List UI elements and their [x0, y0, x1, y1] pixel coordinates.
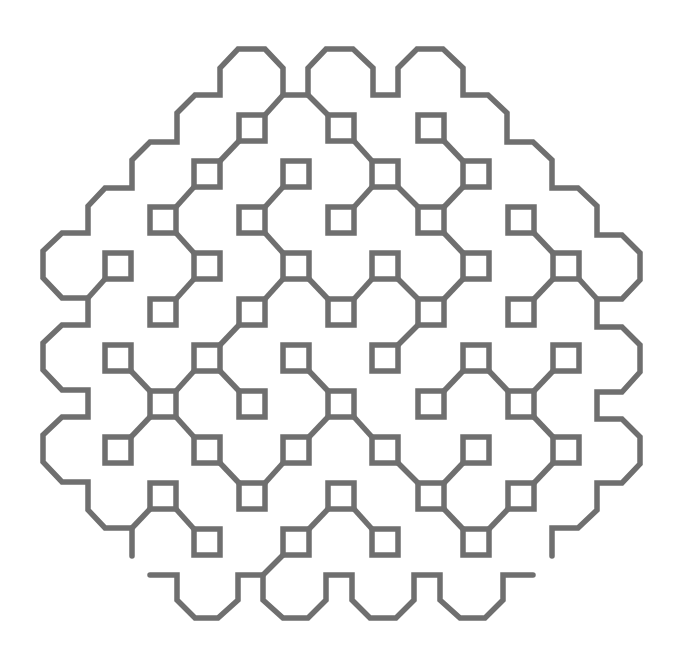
diagonal-link — [176, 233, 194, 253]
diagonal-link — [176, 371, 194, 391]
square-node — [150, 391, 176, 417]
square-node — [150, 299, 176, 325]
rim-link — [308, 95, 328, 115]
diagonal-link — [176, 417, 194, 437]
square-node — [239, 207, 265, 233]
square-node — [418, 207, 444, 233]
square-node — [283, 345, 309, 371]
square-node — [463, 253, 489, 279]
diagonal-link — [131, 417, 150, 437]
maze-pattern-drawing — [0, 0, 680, 663]
square-node — [508, 207, 534, 233]
rim-link — [132, 509, 150, 528]
diagonal-link — [398, 187, 418, 207]
diagonal-link — [354, 187, 372, 207]
square-node — [418, 299, 444, 325]
square-node — [328, 299, 354, 325]
square-nodes — [105, 115, 579, 555]
diagonal-link — [309, 371, 328, 391]
diagonal-link — [398, 325, 418, 345]
square-node — [508, 391, 534, 417]
square-node — [372, 161, 398, 187]
square-node — [105, 253, 131, 279]
square-node — [553, 437, 579, 463]
square-node — [463, 437, 489, 463]
diagonal-link — [131, 371, 150, 391]
square-node — [194, 345, 220, 371]
square-node — [418, 391, 444, 417]
square-node — [372, 345, 398, 371]
diagonal-link — [398, 279, 418, 299]
diagonal-link — [444, 187, 463, 207]
diagonal-link — [534, 463, 553, 483]
square-node — [105, 345, 131, 371]
diagonal-link — [220, 141, 239, 161]
square-node — [239, 299, 265, 325]
square-node — [418, 115, 444, 141]
diagonal-link — [444, 141, 463, 161]
square-node — [553, 345, 579, 371]
square-node — [372, 529, 398, 555]
square-node — [463, 529, 489, 555]
square-node — [372, 437, 398, 463]
rim-link — [263, 555, 283, 575]
square-node — [194, 529, 220, 555]
diagonal-link — [354, 141, 372, 161]
square-node — [283, 529, 309, 555]
square-node — [194, 253, 220, 279]
diagonal-link — [489, 371, 508, 391]
square-node — [283, 437, 309, 463]
rim-link — [579, 279, 597, 299]
rim-link — [265, 95, 283, 115]
square-node — [194, 161, 220, 187]
square-node — [239, 483, 265, 509]
diagonal-link — [220, 371, 239, 391]
square-node — [328, 483, 354, 509]
square-node — [239, 391, 265, 417]
diagonal-link — [489, 509, 508, 529]
diagonal-link — [309, 509, 328, 529]
diagonal-link — [534, 417, 553, 437]
square-node — [372, 253, 398, 279]
diagonal-link — [309, 417, 328, 437]
diagonal-link — [354, 279, 372, 299]
diagonal-link — [220, 463, 239, 483]
square-node — [283, 161, 309, 187]
square-node — [150, 483, 176, 509]
diagonal-links — [88, 95, 597, 575]
diagonal-link — [265, 279, 283, 299]
square-node — [150, 207, 176, 233]
diagonal-link — [354, 417, 372, 437]
square-node — [328, 207, 354, 233]
diagonal-link — [309, 279, 328, 299]
square-node — [239, 115, 265, 141]
square-node — [194, 437, 220, 463]
diagonal-link — [534, 233, 553, 253]
square-node — [328, 115, 354, 141]
square-node — [463, 345, 489, 371]
diagonal-link — [534, 371, 553, 391]
square-node — [508, 483, 534, 509]
square-node — [463, 161, 489, 187]
outer-rim — [43, 49, 640, 556]
diagonal-link — [444, 233, 463, 253]
diagonal-link — [398, 463, 418, 483]
diagonal-link — [444, 463, 463, 483]
diagonal-link — [444, 509, 463, 529]
diagonal-link — [354, 509, 372, 529]
diagonal-link — [534, 279, 553, 299]
diagonal-link — [176, 279, 194, 299]
square-node — [328, 391, 354, 417]
square-node — [283, 253, 309, 279]
square-node — [418, 483, 444, 509]
rim-link — [88, 279, 105, 298]
diagonal-link — [444, 371, 463, 391]
rim-paths — [43, 49, 640, 618]
bottom-wave — [150, 575, 533, 618]
diagonal-link — [265, 463, 283, 483]
diagonal-link — [220, 325, 239, 345]
square-node — [553, 253, 579, 279]
square-node — [105, 437, 131, 463]
diagonal-link — [265, 187, 283, 207]
diagonal-link — [444, 279, 463, 299]
